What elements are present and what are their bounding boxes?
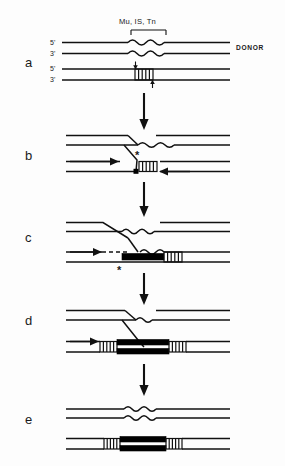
- panel-letter-b: b: [25, 148, 32, 163]
- panel-e-wavy-top: [124, 407, 156, 412]
- panel-e-thick-bar-lower: [120, 446, 166, 452]
- nick-arrow-top: [133, 62, 138, 70]
- panel-c-replication-arrow-right: [70, 248, 102, 256]
- donor-three-prime-label: 3': [50, 50, 55, 57]
- transposition-diagram: Mu, IS, Tn a 5' 3' DONOR 5' 3': [0, 0, 285, 466]
- panel-letter-c: c: [25, 230, 32, 245]
- panel-c: c *: [25, 223, 230, 277]
- panel-b-transposon-wavy: [138, 143, 174, 148]
- panel-letter-e: e: [25, 412, 32, 427]
- figure-root: Mu, IS, Tn a 5' 3' DONOR 5' 3': [0, 0, 285, 466]
- panel-d-thick-bar-upper: [117, 340, 169, 346]
- flow-arrow-a-b: [139, 93, 148, 130]
- panel-e: e: [25, 407, 230, 451]
- panel-d-hatched-box-left: [100, 342, 117, 353]
- panel-a: Mu, IS, Tn a 5' 3' DONOR 5' 3': [25, 17, 264, 88]
- panel-b-replication-arrow-right: [70, 157, 119, 165]
- panel-b-square-marker: [134, 169, 139, 174]
- panel-e-wavy-bottom: [124, 416, 156, 421]
- panel-c-thick-bar: [122, 254, 164, 261]
- transposon-label: Mu, IS, Tn: [119, 17, 156, 26]
- panel-c-asterisk: *: [117, 264, 122, 276]
- panel-d-replication-arrow-right: [70, 337, 99, 345]
- panel-c-crossed-strand: [128, 238, 138, 252]
- panel-e-hatched-box-left: [104, 439, 120, 450]
- panel-c-hatched-box: [164, 252, 182, 262]
- recipient-three-prime-label: 3': [50, 76, 55, 83]
- panel-e-thick-bar-upper: [120, 437, 166, 443]
- flow-arrow-b-c: [139, 182, 148, 217]
- panel-d: d: [25, 311, 230, 355]
- panel-letter-a: a: [25, 55, 33, 70]
- panel-d-hatched-box-right: [169, 342, 186, 353]
- panel-b-asterisk: *: [135, 149, 140, 161]
- panel-b-crossed-strand-upper: [128, 136, 138, 146]
- panel-d-transposon-wavy: [136, 318, 152, 323]
- recipient-five-prime-label: 5': [50, 65, 55, 72]
- donor-label: DONOR: [236, 44, 264, 51]
- panel-d-thick-bar-lower: [117, 349, 169, 355]
- panel-letter-d: d: [25, 313, 32, 328]
- panel-b-replication-arrow-left: [159, 167, 190, 175]
- donor-transposon-wavy-top: [128, 40, 164, 45]
- nick-arrow-bottom: [150, 80, 155, 88]
- panel-d-crossed-strand-upper: [125, 311, 136, 321]
- donor-five-prime-label: 5': [50, 39, 55, 46]
- flow-arrow-c-d: [139, 273, 148, 305]
- panel-c-transposon-wavy-upper: [122, 229, 154, 234]
- panel-b-hatched-box: [139, 162, 157, 172]
- flow-arrow-d-e: [139, 364, 148, 396]
- panel-b: b *: [25, 136, 230, 176]
- panel-e-hatched-box-right: [166, 439, 182, 450]
- target-hatched-box: [135, 69, 153, 80]
- donor-transposon-wavy-bottom: [128, 51, 164, 56]
- panel-c-donor-top-strand: [66, 223, 128, 239]
- transposon-bracket: [131, 30, 166, 35]
